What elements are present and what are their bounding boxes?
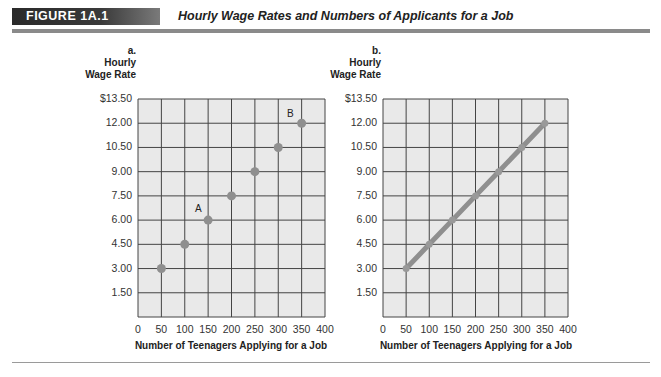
data-point [495,168,502,175]
y-tick-label: 1.50 [327,286,377,298]
panel-b-ylabel-1: Hourly [305,57,381,69]
y-tick-label: 4.50 [82,237,132,249]
panel-a-letter: a. [60,45,136,57]
y-tick-label: 12.00 [82,116,132,128]
bottom-divider [12,362,650,363]
y-tick-label: $13.50 [82,92,132,104]
top-divider [12,29,650,33]
y-tick-label: 7.50 [82,189,132,201]
panel-b-letter: b. [305,45,381,57]
data-point [297,119,306,128]
panel-b-line-plot [383,99,568,317]
y-tick-label: 10.50 [327,140,377,152]
data-point [274,143,283,152]
data-point [250,167,259,176]
panel-a-xlabel: Number of Teenagers Applying for a Job [131,340,331,351]
data-point [227,191,236,200]
panel-b-ylabel-2: Wage Rate [305,69,381,81]
data-point [180,240,189,249]
data-point [426,241,433,248]
data-point [472,192,479,199]
data-point [403,265,410,272]
panel-b-xlabel: Number of Teenagers Applying for a Job [376,340,576,351]
data-point [518,144,525,151]
y-tick-label: 9.00 [82,165,132,177]
panel-a-ylabel-1: Hourly [60,57,136,69]
y-tick-label: 7.50 [327,189,377,201]
data-point [204,216,213,225]
y-tick-label: 1.50 [82,286,132,298]
figure-title: Hourly Wage Rates and Numbers of Applica… [178,8,513,25]
x-tick-label: 400 [310,323,340,335]
y-tick-label: 12.00 [327,116,377,128]
y-tick-label: 6.00 [82,213,132,225]
figure-label: FIGURE 1A.1 [12,8,160,25]
point-b-label: B [287,108,294,119]
y-tick-label: 6.00 [327,213,377,225]
data-point [449,217,456,224]
x-tick-label: 400 [553,323,583,335]
data-point [541,120,548,127]
y-tick-label: 10.50 [82,140,132,152]
panel-a-scatter-plot [138,99,325,317]
data-point [157,264,166,273]
y-tick-label: $13.50 [327,92,377,104]
point-a-label: A [195,203,202,214]
panel-a-ylabel-2: Wage Rate [60,69,136,81]
y-tick-label: 9.00 [327,165,377,177]
y-tick-label: 4.50 [327,237,377,249]
panel-b-heading: b. Hourly Wage Rate [305,45,381,81]
y-tick-label: 3.00 [82,262,132,274]
panel-a-heading: a. Hourly Wage Rate [60,45,136,81]
y-tick-label: 3.00 [327,262,377,274]
